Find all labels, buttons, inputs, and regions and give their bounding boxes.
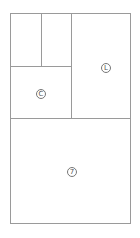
circle-c-icon: C	[36, 89, 46, 99]
circle-l-icon: L	[101, 63, 111, 73]
divider-horizontal-main	[10, 118, 131, 119]
circle-7-icon: 7	[67, 167, 77, 177]
divider-vertical-left	[41, 13, 42, 67]
